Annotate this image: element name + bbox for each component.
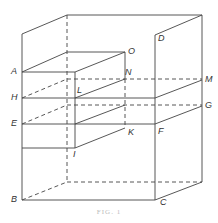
label-i: I [73, 150, 76, 159]
label-f: F [158, 127, 164, 136]
label-h: H [11, 93, 18, 102]
figure-caption: FIG. 1 [0, 208, 218, 216]
box-diagram: A B C D E F G H I K L M N O FIG. 1 [0, 0, 218, 223]
label-b: B [11, 195, 17, 204]
label-o: O [128, 47, 135, 56]
label-n: N [125, 68, 132, 77]
label-d: D [158, 34, 165, 43]
label-e: E [11, 119, 17, 128]
label-c: C [160, 198, 167, 207]
label-m: M [205, 75, 213, 84]
label-l: L [77, 86, 82, 95]
label-k: K [128, 128, 134, 137]
label-a: A [11, 67, 17, 76]
label-g: G [205, 101, 212, 110]
box-diagram-lines [0, 0, 218, 223]
